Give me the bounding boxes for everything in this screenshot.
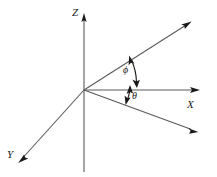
phi-angle-label: ϕ <box>123 65 128 75</box>
axes-drawing <box>0 0 217 177</box>
lower-right-ray <box>84 90 198 134</box>
upper-right-ray <box>84 22 192 90</box>
z-axis-label: Z <box>72 7 78 18</box>
phi-angle-arc <box>129 56 140 88</box>
y-axis <box>18 90 84 163</box>
lower-right-ray-line <box>84 90 191 129</box>
theta-angle-label: θ <box>132 91 137 101</box>
upper-right-ray-line <box>84 26 185 90</box>
x-axis-label: X <box>187 99 194 110</box>
y-axis-label: Y <box>7 149 13 160</box>
coordinate-axes-figure: Z X Y ϕ θ <box>0 0 217 177</box>
y-axis-arrowhead-icon <box>18 154 28 163</box>
x-axis <box>84 87 200 93</box>
y-axis-line <box>24 90 84 157</box>
lower-right-ray-arrowhead-icon <box>188 128 198 134</box>
upper-right-ray-arrowhead-icon <box>181 22 191 30</box>
theta-arc-arrowhead-lower-icon <box>125 95 131 105</box>
